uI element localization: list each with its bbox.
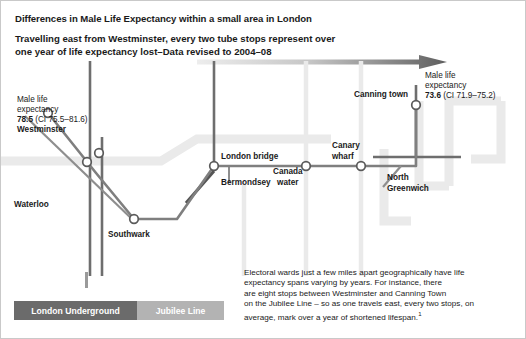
legend-item-london-underground[interactable]: London Underground	[14, 301, 137, 320]
station-marker-canary-wharf	[357, 162, 366, 171]
station-label-canada-water: Canada water	[273, 167, 303, 188]
footnote-marker: 1	[418, 311, 421, 317]
station-label-canary-wharf: Canary wharf	[332, 141, 360, 162]
map-legend: London Underground Jubilee Line	[14, 301, 224, 320]
station-label-north-greenwich-line-1: North	[387, 173, 429, 184]
annotation-canning-town-lead-1: Male life	[425, 71, 496, 81]
tube-life-expectancy-infographic: Differences in Male Life Expectancy with…	[0, 0, 526, 339]
station-marker-canning-town	[412, 101, 421, 110]
annotation-westminster-ci: (CI 75.5–81.6)	[33, 115, 88, 124]
annotation-canning-town-value: 73.6	[425, 91, 441, 100]
annotation-canning-town-value-row: 73.6 (CI 71.9–75.2)	[425, 91, 496, 101]
annotation-westminster-lead-1: Male life	[17, 95, 88, 105]
station-label-bermondsey: Bermondsey	[221, 178, 271, 187]
station-label-canning-town: Canning town	[354, 90, 408, 99]
station-label-north-greenwich-line-2: Greenwich	[387, 184, 429, 195]
caption-line-3: are eight stops between Westminster and …	[244, 289, 520, 299]
annotation-westminster-lead-2: expectancy	[17, 105, 88, 115]
annotation-westminster-value: 78.5	[17, 115, 33, 124]
annotation-canning-town-ci: (CI 71.9–75.2)	[441, 91, 496, 100]
caption-line-5-text: average, mark over a year of shortened l…	[244, 313, 418, 322]
station-label-london-bridge: London bridge	[221, 152, 278, 161]
caption-line-4: on the Jubilee Line – so as one travels …	[244, 299, 520, 309]
station-label-canary-wharf-line-1: Canary	[332, 141, 360, 152]
station-marker-london-bridge	[210, 162, 219, 171]
page-title: Differences in Male Life Expectancy with…	[15, 13, 312, 24]
annotation-canning-town: Male life expectancy 73.6 (CI 71.9–75.2)	[425, 71, 496, 102]
station-marker-waterloo-alt	[95, 149, 104, 158]
station-label-westminster: Westminster	[17, 125, 66, 134]
station-marker-waterloo	[83, 158, 92, 167]
caption-line-5: average, mark over a year of shortened l…	[244, 309, 520, 323]
legend-item-jubilee-line[interactable]: Jubilee Line	[137, 301, 224, 320]
caption-line-2: expectancy spans varying by years. For i…	[244, 278, 520, 288]
station-label-canada-water-line-2: water	[273, 178, 303, 189]
annotation-canning-town-lead-2: expectancy	[425, 81, 496, 91]
station-marker-southwark	[130, 215, 139, 224]
station-label-canada-water-line-1: Canada	[273, 167, 303, 178]
station-label-southwark: Southwark	[108, 230, 150, 239]
stray-tick-mark	[85, 272, 88, 288]
caption-text: Electoral wards just a few miles apart g…	[244, 268, 520, 323]
station-label-waterloo: Waterloo	[14, 200, 49, 209]
station-label-canary-wharf-line-2: wharf	[332, 152, 360, 163]
station-label-north-greenwich: North Greenwich	[387, 173, 429, 194]
annotation-westminster: Male life expectancy 78.5 (CI 75.5–81.6)	[17, 95, 88, 126]
caption-line-1: Electoral wards just a few miles apart g…	[244, 268, 520, 278]
subtitle-line-1: Travelling east from Westminster, every …	[15, 32, 415, 45]
